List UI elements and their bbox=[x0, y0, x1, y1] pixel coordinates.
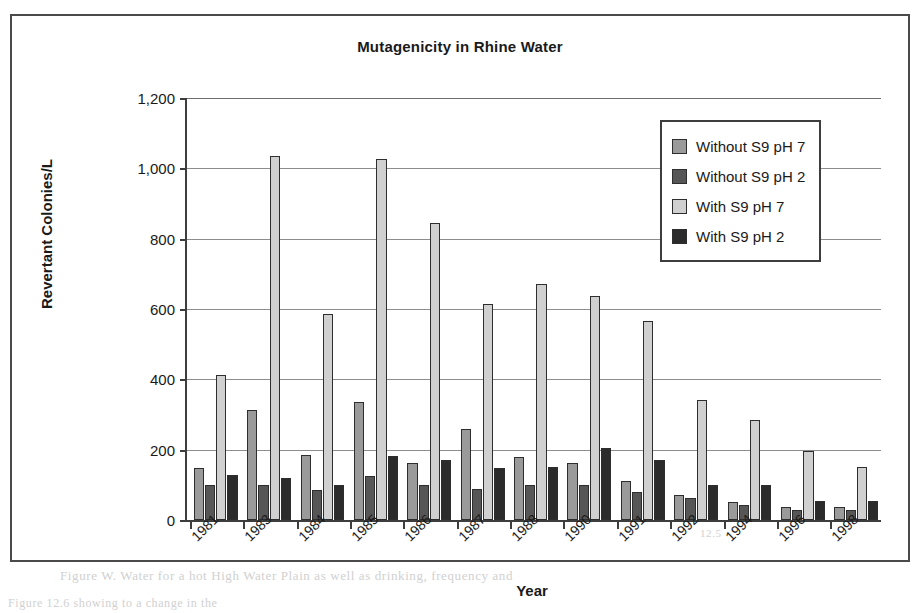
bar[interactable] bbox=[643, 321, 653, 520]
bar[interactable] bbox=[247, 410, 257, 520]
bar[interactable] bbox=[430, 223, 440, 520]
legend-item-label: Without S9 pH 7 bbox=[696, 138, 805, 155]
bar-group: 1984 bbox=[294, 98, 347, 520]
y-axis-tick-label: 1,200 bbox=[137, 90, 175, 107]
bar[interactable] bbox=[376, 159, 386, 521]
y-axis-tick-label: 600 bbox=[150, 301, 175, 318]
bar-group: 1983 bbox=[240, 98, 293, 520]
legend-item[interactable]: Without S9 pH 7 bbox=[672, 131, 805, 161]
bar[interactable] bbox=[483, 304, 493, 520]
legend-swatch-icon bbox=[672, 229, 687, 244]
bar-group: 1990 bbox=[561, 98, 614, 520]
bar[interactable] bbox=[281, 478, 291, 520]
bar[interactable] bbox=[548, 467, 558, 520]
bar[interactable] bbox=[803, 451, 813, 520]
y-axis-tick-label: 0 bbox=[167, 512, 175, 529]
bar[interactable] bbox=[621, 481, 631, 520]
bar[interactable] bbox=[494, 468, 504, 520]
bar[interactable] bbox=[590, 296, 600, 520]
x-axis-title: Year bbox=[185, 582, 879, 599]
legend-swatch-icon bbox=[672, 169, 687, 184]
bar[interactable] bbox=[868, 501, 878, 520]
bar[interactable] bbox=[354, 402, 364, 520]
legend-item[interactable]: With S9 pH 7 bbox=[672, 191, 805, 221]
legend-swatch-icon bbox=[672, 139, 687, 154]
bar-group: 1998 bbox=[828, 98, 881, 520]
y-axis-tick-label: 800 bbox=[150, 230, 175, 247]
bar[interactable] bbox=[697, 400, 707, 520]
y-axis-tick bbox=[180, 379, 187, 381]
legend-item-label: With S9 pH 2 bbox=[696, 228, 784, 245]
bar-group: 1985 bbox=[347, 98, 400, 520]
bar[interactable] bbox=[301, 455, 311, 520]
y-axis-tick bbox=[180, 168, 187, 170]
bar[interactable] bbox=[567, 463, 577, 520]
x-axis-tick-label: 1994 bbox=[722, 511, 755, 544]
y-axis-tick-label: 200 bbox=[150, 441, 175, 458]
bar-group: 1988 bbox=[507, 98, 560, 520]
x-axis-tick-label: 1984 bbox=[295, 511, 328, 544]
y-axis-tick bbox=[180, 309, 187, 311]
bar[interactable] bbox=[654, 460, 664, 520]
y-axis-tick bbox=[180, 450, 187, 452]
bar[interactable] bbox=[601, 448, 611, 520]
bar[interactable] bbox=[270, 156, 280, 520]
bar[interactable] bbox=[441, 460, 451, 520]
bar[interactable] bbox=[815, 501, 825, 520]
x-axis-tick bbox=[297, 520, 299, 529]
legend-swatch-icon bbox=[672, 199, 687, 214]
y-axis-tick-label: 400 bbox=[150, 371, 175, 388]
y-axis-tick-label: 1,000 bbox=[137, 160, 175, 177]
bar[interactable] bbox=[334, 485, 344, 520]
y-axis-title: Revertant Colonies/L bbox=[38, 159, 55, 309]
chart-legend: Without S9 pH 7Without S9 pH 2With S9 pH… bbox=[660, 120, 821, 262]
y-axis-tick bbox=[180, 239, 187, 241]
legend-item[interactable]: Without S9 pH 2 bbox=[672, 161, 805, 191]
bar[interactable] bbox=[194, 468, 204, 520]
bar[interactable] bbox=[461, 429, 471, 520]
bar[interactable] bbox=[388, 456, 398, 520]
legend-item-label: With S9 pH 7 bbox=[696, 198, 784, 215]
bar[interactable] bbox=[514, 457, 524, 520]
y-axis-tick bbox=[180, 98, 187, 100]
legend-item-label: Without S9 pH 2 bbox=[696, 168, 805, 185]
bar[interactable] bbox=[761, 485, 771, 520]
y-axis-tick bbox=[180, 520, 187, 522]
bar[interactable] bbox=[708, 485, 718, 520]
bar[interactable] bbox=[227, 475, 237, 520]
bar[interactable] bbox=[536, 284, 546, 520]
bar[interactable] bbox=[323, 314, 333, 520]
legend-item[interactable]: With S9 pH 2 bbox=[672, 221, 805, 251]
bar-group: 1987 bbox=[454, 98, 507, 520]
chart-title: Mutagenicity in Rhine Water bbox=[12, 38, 908, 55]
bar-group: 1986 bbox=[401, 98, 454, 520]
chart-frame: Mutagenicity in Rhine Water Revertant Co… bbox=[10, 14, 910, 562]
bar[interactable] bbox=[407, 463, 417, 520]
bar-group: 1981 bbox=[187, 98, 240, 520]
bar[interactable] bbox=[857, 467, 867, 520]
bar[interactable] bbox=[216, 375, 226, 520]
x-axis-tick bbox=[724, 520, 726, 529]
bar[interactable] bbox=[750, 420, 760, 520]
